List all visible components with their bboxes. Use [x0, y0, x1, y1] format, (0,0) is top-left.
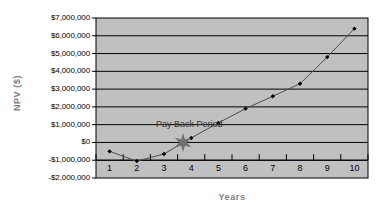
x-tick-label: 6 [236, 164, 256, 173]
y-tick-label: $7,000,000 [51, 14, 90, 22]
y-axis-label: NPV ($) [12, 63, 22, 123]
x-tick-label: 5 [208, 164, 228, 173]
npv-chart: NPV ($) Years $7,000,000$6,000,000$5,000… [0, 0, 378, 210]
x-tick-label: 10 [344, 164, 364, 173]
payback-period-annotation: Pay Back Period [156, 119, 223, 129]
x-tick-label: 8 [290, 164, 310, 173]
x-tick-label: 1 [100, 164, 120, 173]
x-tick-label: 2 [127, 164, 147, 173]
x-tick-label: 4 [181, 164, 201, 173]
y-tick-label: -$2,000,000 [48, 174, 90, 182]
y-tick-label: $4,000,000 [51, 67, 90, 75]
x-tick-label: 3 [154, 164, 174, 173]
plot-background [96, 18, 368, 178]
x-tick-label: 7 [263, 164, 283, 173]
y-tick-label: $0 [81, 138, 90, 146]
y-tick-label: $5,000,000 [51, 50, 90, 58]
y-tick-label: $6,000,000 [51, 32, 90, 40]
x-tick-label: 9 [317, 164, 337, 173]
x-axis-label: Years [96, 192, 368, 202]
y-tick-label: $3,000,000 [51, 85, 90, 93]
y-tick-label: -$1,000,000 [48, 156, 90, 164]
y-tick-marks [92, 18, 96, 178]
y-tick-label: $1,000,000 [51, 121, 90, 129]
y-tick-label: $2,000,000 [51, 103, 90, 111]
